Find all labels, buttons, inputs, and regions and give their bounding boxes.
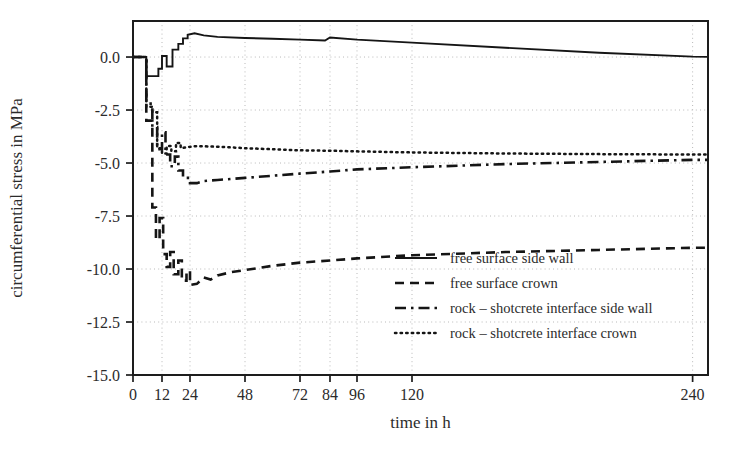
y-tick-label: -10.0 <box>87 261 120 278</box>
y-tick-label: 0.0 <box>100 49 120 66</box>
x-tick-label: 12 <box>154 386 170 403</box>
y-axis-ticks: 0.0-2.5-5.0-7.5-10.0-12.5-15.0 <box>87 49 133 384</box>
gridlines <box>133 21 708 375</box>
legend-label: free surface side wall <box>450 250 574 266</box>
x-tick-label: 120 <box>400 386 424 403</box>
circumferential-stress-line-chart: 0122448728496120240 0.0-2.5-5.0-7.5-10.0… <box>0 0 741 450</box>
legend-label: rock – shotcrete interface crown <box>450 325 638 341</box>
series-layer <box>133 33 716 285</box>
legend-label: rock – shotcrete interface side wall <box>450 300 653 316</box>
series-line <box>133 57 716 154</box>
y-tick-label: -2.5 <box>95 102 120 119</box>
x-axis-ticks: 0122448728496120240 <box>129 375 705 403</box>
plot-frame <box>133 21 708 375</box>
y-axis-label: circumferential stress in MPa <box>7 98 26 298</box>
series-line <box>133 57 716 285</box>
y-tick-label: -7.5 <box>95 208 120 225</box>
y-tick-label: -5.0 <box>95 155 120 172</box>
y-tick-label: -15.0 <box>87 367 120 384</box>
x-tick-label: 240 <box>681 386 705 403</box>
x-tick-label: 24 <box>182 386 198 403</box>
chart-legend: free surface side wallfree surface crown… <box>395 250 653 341</box>
x-tick-label: 84 <box>322 386 338 403</box>
series-line <box>133 57 716 183</box>
x-axis-label: time in h <box>390 413 451 432</box>
x-tick-label: 96 <box>349 386 365 403</box>
x-tick-label: 72 <box>292 386 308 403</box>
y-tick-label: -12.5 <box>87 314 120 331</box>
x-tick-label: 48 <box>237 386 253 403</box>
legend-label: free surface crown <box>450 275 559 291</box>
chart-figure: 0122448728496120240 0.0-2.5-5.0-7.5-10.0… <box>0 0 741 450</box>
series-line <box>133 33 716 76</box>
x-tick-label: 0 <box>129 386 137 403</box>
